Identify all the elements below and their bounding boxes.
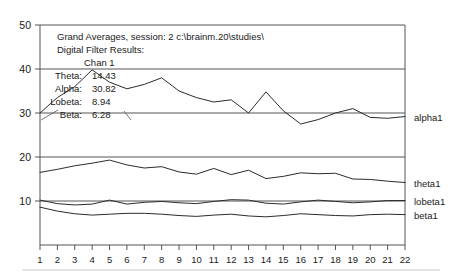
annotation-value-beta: 6.28 — [92, 109, 111, 120]
xtick-label-15: 15 — [278, 254, 289, 265]
xtick-label-11: 11 — [209, 254, 219, 265]
annotation-key-lobeta: Lobeta: — [50, 96, 82, 107]
xtick-label-18: 18 — [330, 254, 341, 265]
xtick-label-5: 5 — [107, 254, 112, 265]
annotation-key-beta: Beta: — [60, 109, 82, 120]
xtick-label-7: 7 — [142, 254, 147, 265]
ytick-label-20: 20 — [19, 151, 31, 163]
ytick-label-30: 30 — [19, 107, 31, 119]
xtick-label-17: 17 — [313, 254, 324, 265]
xtick-label-19: 19 — [348, 254, 359, 265]
line-chart: 1020304050123456789101112131415161718192… — [0, 0, 463, 280]
ytick-label-10: 10 — [19, 195, 31, 207]
annotation-key-alpha: Alpha: — [55, 83, 82, 94]
series-label-theta1: theta1 — [414, 178, 440, 189]
annotation-value-alpha: 30.82 — [92, 83, 116, 94]
leader-line-beta — [41, 110, 58, 120]
annotation-value-theta: 14.43 — [92, 70, 116, 81]
xtick-label-2: 2 — [55, 254, 60, 265]
series-label-beta1: beta1 — [414, 210, 438, 221]
chart-subtitle: Digital Filter Results: — [57, 44, 144, 55]
series-line-lobeta1 — [40, 200, 405, 205]
xtick-label-6: 6 — [124, 254, 129, 265]
xtick-label-22: 22 — [400, 254, 411, 265]
xtick-label-10: 10 — [191, 254, 202, 265]
xtick-label-1: 1 — [37, 254, 42, 265]
xtick-label-16: 16 — [295, 254, 306, 265]
xtick-label-20: 20 — [365, 254, 376, 265]
xtick-label-13: 13 — [243, 254, 254, 265]
ytick-label-50: 50 — [19, 19, 31, 31]
xtick-label-14: 14 — [261, 254, 272, 265]
xtick-label-3: 3 — [72, 254, 77, 265]
leader-line-alpha — [124, 111, 131, 120]
annotation-key-theta: Theta: — [55, 70, 82, 81]
xtick-label-4: 4 — [89, 254, 94, 265]
xtick-label-9: 9 — [176, 254, 181, 265]
series-line-beta1 — [40, 207, 405, 217]
xtick-label-12: 12 — [226, 254, 237, 265]
chart-title: Grand Averages, session: 2 c:\brainm.20\… — [57, 31, 264, 42]
xtick-label-21: 21 — [382, 254, 393, 265]
annotation-channel-label: Chan 1 — [84, 57, 115, 68]
annotation-value-lobeta: 8.94 — [92, 96, 111, 107]
series-label-lobeta1: lobeta1 — [414, 196, 445, 207]
chart-container: 1020304050123456789101112131415161718192… — [0, 0, 463, 280]
xtick-label-8: 8 — [159, 254, 164, 265]
series-line-theta1 — [40, 160, 405, 182]
series-label-alpha1: alpha1 — [414, 112, 443, 123]
ytick-label-40: 40 — [19, 63, 31, 75]
